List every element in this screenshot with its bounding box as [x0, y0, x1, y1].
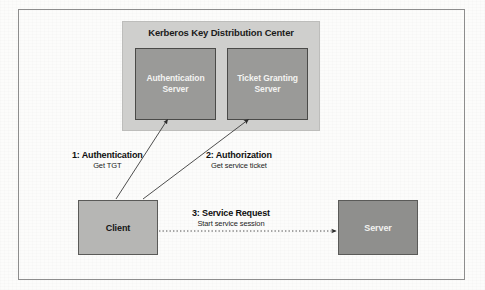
client-box[interactable]: Client	[78, 200, 158, 255]
step-2-title: 2: Authorization	[206, 150, 272, 161]
authentication-server-box[interactable]: Authentication Server	[135, 48, 216, 120]
step-1-subtitle: Get TGT	[72, 161, 143, 171]
client-label: Client	[106, 223, 130, 233]
step-1-title: 1: Authentication	[72, 150, 143, 161]
step-2-label: 2: Authorization Get service ticket	[206, 150, 272, 171]
step-3-title: 3: Service Request	[192, 208, 270, 219]
server-box[interactable]: Server	[338, 200, 418, 255]
kdc-title: Kerberos Key Distribution Center	[123, 27, 319, 38]
kerberos-flow-diagram: Kerberos Key Distribution Center Authent…	[0, 0, 485, 290]
kerberos-key-distribution-center: Kerberos Key Distribution Center Authent…	[122, 21, 320, 131]
server-label: Server	[364, 223, 391, 233]
step-3-subtitle: Start service session	[192, 219, 270, 229]
ticket-granting-server-label: Ticket Granting Server	[237, 73, 298, 95]
authentication-server-label: Authentication Server	[146, 73, 204, 95]
step-2-subtitle: Get service ticket	[206, 161, 272, 171]
step-1-label: 1: Authentication Get TGT	[72, 150, 143, 171]
ticket-granting-server-box[interactable]: Ticket Granting Server	[227, 48, 308, 120]
step-3-label: 3: Service Request Start service session	[192, 208, 270, 229]
